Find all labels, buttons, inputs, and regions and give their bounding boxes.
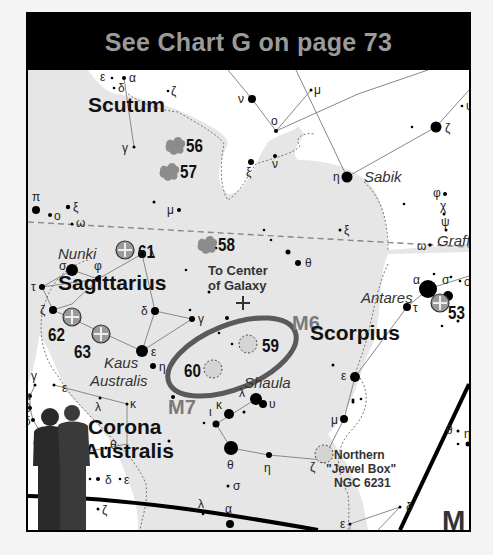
star-greek-label: ο — [464, 275, 469, 289]
star-name-label: Graff — [437, 232, 469, 249]
star — [189, 309, 192, 312]
star — [225, 316, 229, 320]
star-greek-label: γ — [122, 141, 128, 155]
star — [39, 284, 45, 290]
people-silhouette-icon — [33, 405, 90, 530]
star — [263, 229, 266, 232]
star-greek-label: λ — [95, 400, 101, 414]
star — [332, 364, 335, 367]
star-greek-label: ε — [124, 473, 130, 487]
star-greek-label: α — [129, 71, 136, 85]
star-greek-label: γ — [198, 312, 204, 326]
star-greek-label: λ — [198, 497, 204, 511]
star — [89, 478, 92, 481]
star-greek-label: ζ — [310, 460, 316, 474]
star-greek-label: ω — [417, 239, 426, 253]
star-greek-label: δ — [28, 414, 31, 428]
star — [31, 418, 35, 422]
star — [32, 206, 40, 214]
star — [248, 95, 256, 103]
star-greek-label: ο — [271, 114, 278, 128]
object-number-label: 60 — [184, 359, 201, 381]
star — [443, 192, 447, 196]
constellation-label: Scorpius — [310, 321, 400, 344]
star-greek-label: η — [464, 427, 469, 441]
star — [431, 122, 442, 133]
star-greek-label: π — [32, 190, 40, 204]
star — [461, 105, 464, 108]
corner-letter: M — [442, 505, 465, 530]
object-number-label: 61 — [138, 240, 155, 262]
star-chart-frame: αεδζγνμονξηζυφχψξωποξωμσφλτζδγεθηασοτεμθ… — [26, 12, 471, 532]
star-greek-label: ν — [238, 92, 244, 106]
object-number-label: 63 — [74, 340, 91, 362]
star-greek-label: σ — [442, 273, 450, 287]
star-greek-label: γ — [31, 369, 37, 383]
jewel-box-label-1: Northern — [334, 448, 385, 462]
star — [126, 403, 129, 406]
star — [96, 477, 100, 481]
star-greek-label: φ — [433, 186, 441, 200]
star-greek-label: ψ — [441, 215, 450, 229]
star-greek-label: τ — [31, 280, 36, 294]
star — [295, 260, 301, 266]
star-greek-label: θ — [227, 458, 234, 472]
star — [457, 443, 460, 446]
star-greek-label: θ — [305, 256, 312, 270]
star — [133, 146, 136, 149]
star-greek-label: ε — [62, 381, 68, 395]
star-greek-label: ν — [272, 157, 278, 171]
chart-reference-banner[interactable]: See Chart G on page 73 — [28, 14, 469, 70]
star-greek-label: μ — [331, 413, 338, 427]
star — [167, 90, 170, 93]
galactic-center-label-2: of Galaxy — [208, 278, 267, 293]
object-number-label: 53 — [448, 301, 465, 323]
star — [286, 250, 291, 255]
star-greek-label: ζ — [171, 84, 177, 98]
star — [266, 452, 272, 458]
star — [203, 422, 206, 425]
star — [151, 307, 159, 315]
star-name-label: Nunki — [58, 245, 97, 262]
constellation-label: Corona — [88, 415, 162, 438]
star — [339, 229, 342, 232]
star-name-label: Antares — [360, 289, 413, 306]
star-greek-label: τ — [413, 301, 418, 315]
star-greek-label: ε — [151, 345, 157, 359]
star — [411, 126, 414, 129]
star — [66, 205, 70, 209]
star-greek-label: ζ — [445, 121, 451, 135]
star-name-label: Sabik — [364, 168, 403, 185]
star-greek-label: κ — [130, 397, 137, 411]
star — [342, 172, 353, 183]
star — [202, 513, 205, 516]
star — [270, 239, 273, 242]
star-greek-label: ε — [341, 369, 347, 383]
star-greek-label: ε — [340, 517, 346, 530]
star — [48, 213, 52, 217]
star — [433, 273, 436, 276]
star-greek-label: ζ — [40, 303, 46, 317]
star — [457, 430, 460, 433]
object-number-label: 58 — [218, 233, 235, 255]
star — [150, 363, 156, 369]
star-greek-label: δ — [141, 304, 148, 318]
open-cluster-icon — [315, 445, 333, 463]
star-greek-label: σ — [233, 479, 241, 493]
star — [350, 372, 360, 382]
star — [459, 280, 462, 283]
star — [310, 89, 313, 92]
star — [213, 421, 220, 428]
star-greek-label: μ — [314, 83, 321, 97]
star — [189, 316, 195, 322]
star-greek-label: β — [28, 401, 31, 415]
star-greek-label: ξ — [344, 223, 350, 237]
star — [224, 441, 238, 455]
star — [399, 506, 402, 509]
star — [224, 409, 234, 419]
star — [227, 485, 230, 488]
object-number-label: 57 — [180, 160, 197, 182]
star — [349, 523, 352, 526]
star-name-label: Shaula — [244, 374, 291, 391]
star — [259, 400, 267, 408]
